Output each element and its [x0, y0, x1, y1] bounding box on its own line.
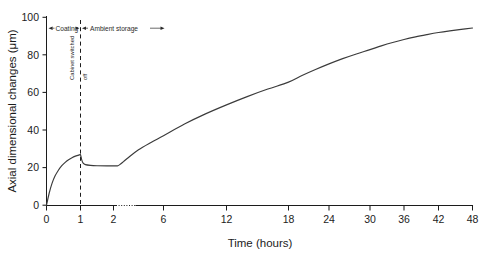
- ambient-storage-label: Ambient storage: [90, 25, 138, 33]
- y-axis-tick-labels: 100 80 60 40 20 0: [21, 11, 39, 211]
- x-tick-label-30: 30: [364, 213, 376, 225]
- y-tick-label-80: 80: [27, 49, 39, 61]
- x-tick-label-1: 1: [78, 213, 84, 225]
- y-tick-label-0: 0: [33, 199, 39, 211]
- y-axis-ticks: [43, 17, 47, 205]
- x-tick-label-6: 6: [161, 213, 167, 225]
- cabinet-switched-label: Cabinet switched: [69, 36, 75, 80]
- phase-annotation-coating: Coating: [49, 25, 80, 33]
- y-tick-label-100: 100: [21, 11, 39, 23]
- coating-left-arrow-icon: [49, 26, 53, 30]
- y-tick-label-20: 20: [27, 161, 39, 173]
- x-tick-label-42: 42: [433, 213, 445, 225]
- ambient-right-arrow-icon: [161, 26, 165, 30]
- coating-label: Coating: [56, 25, 79, 33]
- x-tick-label-18: 18: [283, 213, 295, 225]
- x-axis-ticks: [47, 206, 473, 211]
- x-tick-label-48: 48: [467, 213, 479, 225]
- y-axis-title: Axial dimensional changes (μm): [6, 29, 18, 192]
- chart-plot-area: 100 80 60 40 20 0 0 1 2 6 12: [0, 0, 491, 264]
- chart-figure: 100 80 60 40 20 0 0 1 2 6 12: [0, 0, 491, 264]
- x-tick-label-2: 2: [111, 213, 117, 225]
- y-tick-label-40: 40: [27, 124, 39, 136]
- data-series-axial-dimensional-change: [47, 28, 473, 205]
- x-axis-tick-labels: 0 1 2 6 12 18 24 30 36 42 48: [44, 213, 479, 225]
- x-tick-label-0: 0: [44, 213, 50, 225]
- cabinet-off-label: off: [82, 73, 88, 80]
- x-tick-label-24: 24: [323, 213, 335, 225]
- y-tick-label-60: 60: [27, 86, 39, 98]
- x-axis-title: Time (hours): [228, 237, 293, 249]
- phase-annotation-ambient-storage: Ambient storage: [82, 25, 165, 33]
- x-tick-label-36: 36: [398, 213, 410, 225]
- ambient-left-arrow-icon: [82, 26, 86, 30]
- x-tick-label-12: 12: [221, 213, 233, 225]
